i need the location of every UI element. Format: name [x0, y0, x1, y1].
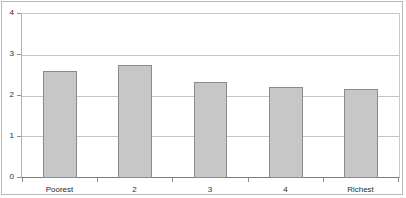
y-tick-label-4: 4	[10, 9, 14, 17]
y-tick-label-0: 0	[10, 173, 14, 181]
y-tick-mark-4	[17, 13, 21, 14]
x-tick-label-poorest: Poorest	[22, 185, 97, 194]
bar-chart: 4 3 2 1 0 Poorest 2 3 4 Richest	[0, 0, 406, 198]
x-tick-label-4: 4	[248, 185, 323, 194]
y-tick-label-3: 3	[10, 50, 14, 58]
x-tick-mark-1	[97, 178, 98, 182]
bar	[269, 87, 303, 178]
x-tick-label-2: 2	[97, 185, 172, 194]
x-tick-mark-0	[22, 178, 23, 182]
y-tick-mark-0	[17, 177, 21, 178]
y-tick-label-1: 1	[10, 132, 14, 140]
x-tick-label-3: 3	[172, 185, 248, 194]
x-tick-mark-2	[172, 178, 173, 182]
x-axis-ticks	[22, 178, 399, 182]
x-tick-mark-4	[323, 178, 324, 182]
x-tick-mark-3	[248, 178, 249, 182]
y-tick-mark-2	[17, 95, 21, 96]
bar	[194, 82, 228, 178]
x-axis: Poorest 2 3 4 Richest	[22, 185, 399, 197]
y-tick-mark-1	[17, 136, 21, 137]
y-tick-mark-3	[17, 54, 21, 55]
bar	[344, 89, 378, 178]
x-tick-label-richest: Richest	[323, 185, 398, 194]
bar	[118, 65, 152, 178]
bar	[43, 71, 77, 178]
y-axis: 4 3 2 1 0	[0, 0, 21, 198]
y-tick-label-2: 2	[10, 91, 14, 99]
bars-layer	[22, 14, 399, 178]
x-tick-mark-5	[398, 178, 399, 182]
